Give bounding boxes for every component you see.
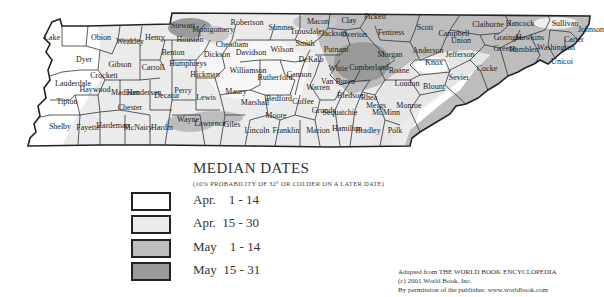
- county-label-montgomery: Montgomery: [192, 25, 234, 34]
- county-label-unicoi: Unicoi: [551, 57, 574, 66]
- county-label-mcminn: McMinn: [372, 108, 400, 117]
- county-label-marion: Marion: [306, 126, 330, 135]
- county-label-macon: Macon: [307, 17, 329, 26]
- county-label-tipton: Tipton: [56, 97, 77, 106]
- county-label-gibson: Gibson: [108, 60, 131, 69]
- legend-swatch: [131, 262, 171, 281]
- county-label-franklin: Franklin: [272, 126, 299, 135]
- county-label-houston: Houston: [176, 35, 203, 44]
- county-label-overton: Overton: [341, 30, 367, 39]
- county-label-sullivan: Sullivan: [552, 19, 579, 28]
- county-label-polk: Polk: [388, 126, 403, 135]
- county-label-grainger: Grainger: [494, 33, 523, 42]
- county-label-giles: Giles: [224, 120, 241, 129]
- county-label-coffee: Coffee: [292, 97, 314, 106]
- county-label-van-buren: Van Buren: [321, 77, 355, 86]
- legend-swatch: [131, 192, 171, 211]
- county-label-lake: Lake: [44, 33, 60, 42]
- county-label-hamblen: Hamblen: [509, 45, 538, 54]
- county-label-pickett: Pickett: [364, 12, 387, 21]
- legend-swatch: [131, 215, 171, 234]
- legend-label: May 15 - 31: [193, 262, 260, 278]
- county-label-davidson: Davidson: [236, 48, 267, 57]
- county-label-robertson: Robertson: [231, 18, 264, 27]
- county-label-mcnairy: McNairy: [124, 123, 153, 132]
- county-label-obion: Obion: [91, 33, 111, 42]
- legend-item-may-15-31: May 15 - 31: [131, 262, 431, 281]
- legend-swatch: [131, 239, 171, 258]
- county-label-anderson: Anderson: [412, 46, 443, 55]
- tennessee-county-map: LakeObionWeakleyHenryStewartMontgomeryRo…: [0, 0, 604, 160]
- credit-line-3: By permission of the publisher. www.worl…: [398, 286, 548, 294]
- county-label-benton: Benton: [161, 48, 184, 57]
- legend-label: Apr. 15 - 30: [193, 215, 259, 231]
- county-label-carroll: Carroll: [142, 63, 165, 72]
- county-label-washington: Washington: [537, 43, 575, 52]
- county-label-lawrence: Lawrence: [194, 119, 226, 128]
- county-label-moore: Moore: [265, 111, 287, 120]
- county-label-cumberland: Cumberland: [349, 63, 389, 72]
- county-label-lewis: Lewis: [196, 93, 216, 102]
- county-label-sevier: Sevier: [449, 73, 470, 82]
- legend-title: MEDIAN DATES: [193, 160, 309, 177]
- legend-item-apr-1-14: Apr. 1 - 14: [131, 192, 431, 211]
- legend-subtitle: (10% PROBABILITY OF 32° OR COLDER ON A L…: [193, 180, 384, 187]
- county-label-knox: Knox: [425, 58, 443, 67]
- county-label-bradley: Bradley: [355, 126, 380, 135]
- county-label-humphreys: Humphreys: [169, 59, 206, 68]
- legend-item-apr-15-30: Apr. 15 - 30: [131, 215, 431, 234]
- county-label-wilson: Wilson: [271, 45, 294, 54]
- county-label-loudon: Loudon: [395, 79, 420, 88]
- county-label-dyer: Dyer: [76, 55, 92, 64]
- county-label-trousdale: Trousdale: [290, 27, 322, 36]
- county-label-hickman: Hickman: [190, 70, 219, 79]
- county-label-clay: Clay: [341, 16, 356, 25]
- county-label-union: Union: [451, 36, 471, 45]
- legend-label: May 1 - 14: [193, 239, 260, 255]
- county-label-scott: Scott: [417, 23, 434, 32]
- county-label-lincoln: Lincoln: [245, 126, 270, 135]
- county-label-claiborne: Claiborne: [472, 20, 504, 29]
- county-label-dickson: Dickson: [204, 50, 231, 59]
- county-label-sequatchie: Sequatchie: [322, 108, 358, 117]
- county-label-putnam: Putnam: [324, 45, 349, 54]
- credit-line-2: (c) 2001 World Book, Inc.: [398, 277, 472, 285]
- county-label-maury: Maury: [225, 87, 246, 96]
- county-label-perry: Perry: [174, 86, 191, 95]
- county-label-morgan: Morgan: [377, 50, 402, 59]
- county-label-henry: Henry: [145, 33, 165, 42]
- county-label-hardin: Hardin: [151, 123, 173, 132]
- county-label-cocke: Cocke: [477, 64, 498, 73]
- county-label-haywood: Haywood: [79, 85, 110, 94]
- county-label-monroe: Monroe: [396, 101, 422, 110]
- legend-item-may-1-14: May 1 - 14: [131, 239, 431, 258]
- county-label-blount: Blount: [423, 82, 446, 91]
- county-label-fentress: Fentress: [378, 28, 405, 37]
- county-label-crockett: Crockett: [90, 71, 118, 80]
- credit-line-1: Adapted from THE WORLD BOOK ENCYCLOPEDIA: [398, 268, 557, 276]
- county-label-jefferson: Jefferson: [445, 50, 474, 59]
- county-label-hancock: Hancock: [506, 19, 534, 28]
- county-label-cannon: Cannon: [287, 70, 312, 79]
- county-label-dekalb: DeKalb: [299, 55, 324, 64]
- county-label-weakley: Weakley: [116, 37, 144, 46]
- legend-label: Apr. 1 - 14: [193, 192, 259, 208]
- county-label-white: White: [328, 64, 348, 73]
- county-label-smith: Smith: [295, 39, 314, 48]
- county-label-bedford: Bedford: [266, 94, 292, 103]
- county-label-chester: Chester: [118, 103, 143, 112]
- county-label-roane: Roane: [389, 66, 410, 75]
- county-label-johnson: Johnson: [578, 25, 604, 34]
- county-label-bledsoe: Bledsoe: [337, 91, 363, 100]
- county-label-shelby: Shelby: [49, 122, 71, 131]
